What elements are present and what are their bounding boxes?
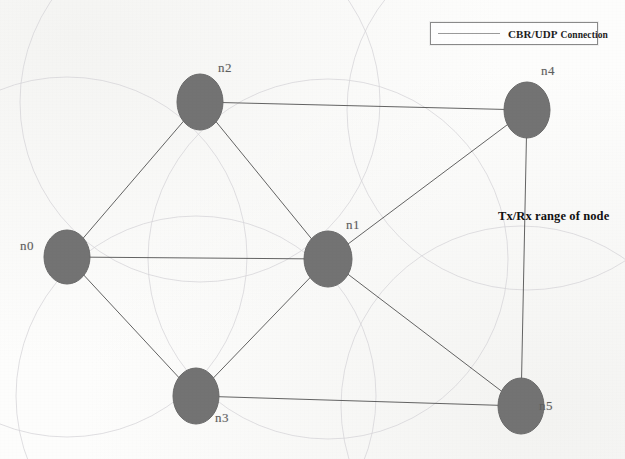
legend-line-sample — [438, 33, 500, 34]
node-label-n5: n5 — [539, 398, 553, 414]
node-label-n3: n3 — [215, 410, 229, 426]
node-labels-layer: n0n1n2n3n4n5 — [0, 0, 625, 459]
node-label-n4: n4 — [541, 63, 555, 79]
legend-label: CBR/UDP Connection — [508, 28, 608, 40]
node-label-n0: n0 — [20, 238, 34, 254]
topology-scene: n0n1n2n3n4n5 CBR/UDP Connection Tx/Rx ra… — [0, 0, 625, 459]
figure-canvas: n0n1n2n3n4n5 CBR/UDP Connection Tx/Rx ra… — [0, 0, 625, 459]
legend-label-main: CBR/UDP — [508, 28, 558, 40]
tx-rx-range-annotation: Tx/Rx range of node — [498, 209, 609, 224]
node-label-n2: n2 — [218, 60, 232, 76]
legend-box: CBR/UDP Connection — [430, 22, 598, 45]
node-label-n1: n1 — [346, 217, 360, 233]
legend-label-tail: Connection — [560, 30, 607, 40]
